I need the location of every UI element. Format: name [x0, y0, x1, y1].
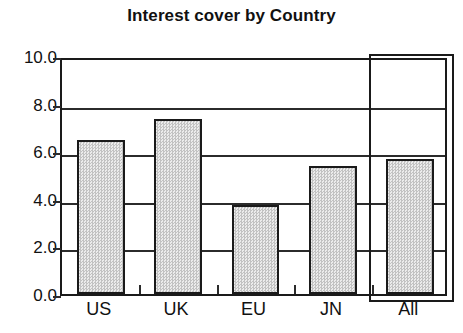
y-axis-tick-label: 4.0: [1, 192, 57, 209]
y-axis-tick-label: 6.0: [1, 144, 57, 161]
y-axis-tick-mark: [53, 106, 61, 108]
x-axis-tick-label: JN: [292, 300, 369, 320]
x-axis: USUKEUJNAll: [60, 300, 447, 330]
x-axis-tick-mark: [372, 285, 374, 294]
y-axis-tick-mark: [53, 248, 61, 250]
chart-title: Interest cover by Country: [0, 6, 463, 26]
x-axis-tick-mark: [217, 285, 219, 294]
bar-chart: Interest cover by Country 10.08.06.04.02…: [0, 0, 463, 333]
x-axis-tick-label: EU: [215, 300, 292, 320]
gridline: [62, 108, 445, 110]
bar: [309, 166, 357, 294]
x-axis-tick-label: All: [370, 300, 447, 320]
x-axis-tick-mark: [139, 285, 141, 294]
y-axis-tick-mark: [53, 201, 61, 203]
y-axis-tick-label: 2.0: [1, 239, 57, 256]
x-axis-tick-mark: [294, 285, 296, 294]
y-axis-tick-mark: [53, 153, 61, 155]
bar: [154, 119, 202, 294]
y-axis-tick-label: 0.0: [1, 287, 57, 304]
bar: [232, 205, 280, 294]
y-axis-tick-mark: [53, 296, 61, 298]
plot-area: [60, 58, 447, 296]
x-axis-tick-label: US: [60, 300, 137, 320]
y-axis: 10.08.06.04.02.00.0: [0, 0, 57, 333]
bar: [77, 140, 125, 294]
bar: [386, 159, 434, 294]
y-axis-tick-label: 10.0: [1, 49, 57, 66]
x-axis-tick-label: UK: [137, 300, 214, 320]
y-axis-tick-label: 8.0: [1, 97, 57, 114]
y-axis-tick-mark: [53, 58, 61, 60]
